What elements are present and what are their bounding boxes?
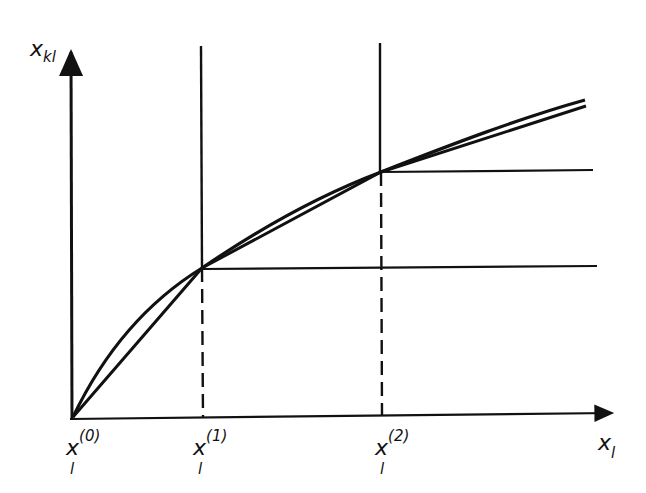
breakpoint-sub-0: l — [70, 460, 75, 478]
vertical-line-x1-dashed — [202, 268, 203, 418]
breakpoint-label-0: x(0) — [65, 427, 100, 460]
diagram-canvas: xkl xl x(0) l x(1) l x(2) l — [0, 0, 646, 493]
breakpoint-label-1: x(1) — [192, 427, 227, 460]
vertical-line-x2-dashed — [381, 172, 382, 415]
y-axis-label: xkl — [29, 36, 57, 66]
x-axis — [70, 413, 612, 419]
y-axis — [71, 52, 72, 420]
breakpoint-sub-1: l — [198, 460, 203, 478]
concave-function-curve — [73, 100, 585, 417]
breakpoint-sub-2: l — [380, 460, 385, 478]
vertical-line-x1-solid — [201, 46, 202, 268]
breakpoint-label-2: x(2) — [374, 427, 409, 460]
horizontal-line-level-1 — [202, 266, 597, 269]
horizontal-line-level-2 — [381, 170, 593, 172]
piecewise-linear-approximation — [73, 106, 586, 417]
x-axis-label: xl — [597, 430, 616, 462]
